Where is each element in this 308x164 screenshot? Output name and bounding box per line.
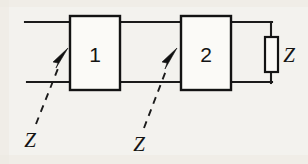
impedance-rectangle: [265, 37, 278, 72]
annotation-2-arrowhead: [162, 48, 177, 69]
circuit-canvas: 1 2 Z Z Z: [0, 0, 308, 164]
impedance-symbol: Z: [265, 37, 295, 72]
circuit-diagram: 1 2 Z Z Z: [0, 0, 308, 164]
annotation-z-2: Z: [133, 48, 177, 156]
wire-group: [25, 22, 272, 83]
annotation-z-1: Z: [24, 48, 68, 152]
network-block-2: 2: [181, 16, 231, 90]
annotation-2-leader-line: [144, 68, 167, 128]
annotation-1-arrowhead: [53, 48, 68, 68]
block-1-label: 1: [89, 43, 101, 66]
annotation-1-leader-line: [36, 66, 59, 124]
network-block-1: 1: [70, 16, 120, 90]
annotation-2-label: Z: [133, 132, 145, 156]
annotation-1-label: Z: [24, 128, 36, 152]
block-2-label: 2: [200, 43, 212, 66]
impedance-label: Z: [283, 43, 295, 67]
